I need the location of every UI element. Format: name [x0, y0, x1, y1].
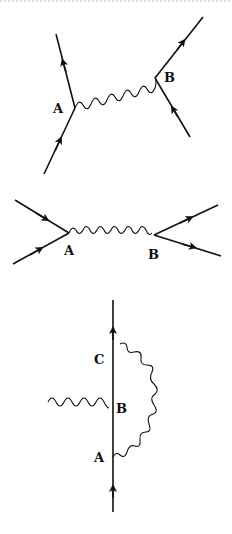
arrow-icon [63, 62, 66, 72]
vertex-label-b: B [148, 247, 159, 262]
fermion-line-in-b [155, 78, 190, 137]
arrow-icon [36, 213, 46, 219]
photon-propagator [75, 77, 156, 109]
loop-photon [113, 343, 157, 457]
feynman-diagrams: A B A B C B A [0, 0, 232, 534]
vertex-label-a: A [52, 101, 64, 116]
photon-propagator [69, 227, 152, 235]
arrow-icon [173, 109, 178, 117]
fermion-line-in-lower [13, 233, 69, 264]
exchange-diagram: A B [44, 17, 203, 174]
arrow-icon [55, 140, 60, 151]
arrow-icon [180, 218, 190, 223]
arrow-icon [177, 42, 183, 50]
annihilation-diagram: A B [13, 200, 221, 264]
arrow-icon [30, 249, 40, 255]
vertex-label-b: B [116, 401, 127, 416]
external-photon [48, 398, 109, 408]
vertex-label-a: A [63, 243, 75, 258]
arrow-icon [182, 244, 193, 247]
vertex-label-b: B [164, 70, 175, 85]
vertex-label-c: C [94, 352, 104, 367]
vertex-correction-diagram: C B A [48, 300, 157, 512]
vertex-label-a: A [93, 450, 105, 465]
